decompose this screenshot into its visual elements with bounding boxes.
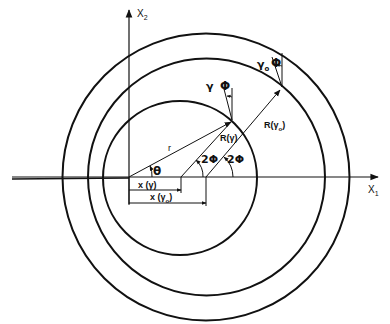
phi-label-1: Φ	[220, 79, 230, 93]
r-label: r	[168, 143, 171, 153]
theta-arc	[150, 166, 152, 177]
R-gamma0-label: R(γo)	[264, 120, 285, 132]
x1-axis-label: X1	[368, 184, 379, 197]
phi-label-2: Φ	[271, 56, 281, 70]
two-phi-label-1: 2Φ	[201, 153, 218, 166]
r-vector	[129, 122, 231, 177]
R-gamma-vector	[181, 122, 231, 177]
x1-axis	[12, 177, 378, 179]
gamma0-label: γo	[257, 58, 270, 73]
x-gamma0-label: x (γo)	[150, 192, 172, 204]
x-gamma-label: x (γ)	[138, 180, 157, 190]
theta-label: θ	[153, 164, 161, 178]
x2-axis-label: X2	[137, 8, 148, 21]
R-gamma-label: R(γ)	[220, 133, 238, 143]
two-phi-label-2: 2Φ	[227, 153, 244, 166]
gamma-label: γ	[206, 80, 214, 93]
diagram-canvas: X1 X2 r θ 2Φ 2Φ R(γ) R(γo) γ Φ γo Φ x (γ…	[0, 0, 390, 324]
